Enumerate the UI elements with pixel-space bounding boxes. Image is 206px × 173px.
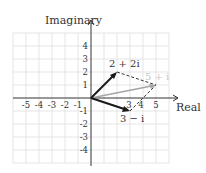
vector-5-plus-i (91, 84, 156, 98)
svg-text:-2: -2 (80, 119, 88, 129)
svg-text:5: 5 (153, 100, 158, 110)
svg-text:1: 1 (83, 80, 88, 90)
svg-text:-3: -3 (80, 132, 88, 142)
svg-text:-4: -4 (35, 100, 43, 110)
svg-text:-5: -5 (22, 100, 30, 110)
svg-text:2: 2 (83, 67, 88, 77)
label-5-plus-i: 5 + i (145, 71, 169, 82)
real-axis-label: Real (176, 101, 201, 114)
imaginary-axis-label: Imaginary (45, 14, 103, 27)
svg-text:4: 4 (138, 100, 143, 110)
svg-text:-2: -2 (61, 100, 69, 110)
label-2-plus-2i: 2 + 2i (109, 58, 140, 69)
svg-text:4: 4 (83, 41, 88, 51)
complex-plane-diagram: Imaginary Real -5 -4 -3 -2 -1 3 4 5 4 3 … (0, 0, 206, 173)
svg-text:-1: -1 (80, 106, 88, 116)
svg-text:-3: -3 (48, 100, 56, 110)
svg-text:3: 3 (126, 100, 131, 110)
svg-text:-4: -4 (80, 145, 88, 155)
svg-text:3: 3 (83, 54, 88, 64)
x-tick-labels: -5 -4 -3 -2 -1 3 4 5 (22, 100, 159, 110)
vector-3-minus-i (91, 98, 130, 112)
label-3-minus-i: 3 − i (120, 113, 144, 124)
